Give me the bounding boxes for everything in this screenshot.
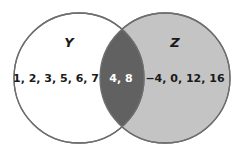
set-z-elements: −4, 0, 12, 16 <box>145 72 225 85</box>
set-z-label: Z <box>169 35 180 50</box>
intersection-elements: 4, 8 <box>109 72 132 85</box>
venn-diagram: Y Z 1, 2, 3, 5, 6, 7 4, 8 −4, 0, 12, 16 <box>0 0 235 151</box>
set-y-elements: 1, 2, 3, 5, 6, 7 <box>13 72 99 85</box>
set-y-label: Y <box>64 35 75 50</box>
